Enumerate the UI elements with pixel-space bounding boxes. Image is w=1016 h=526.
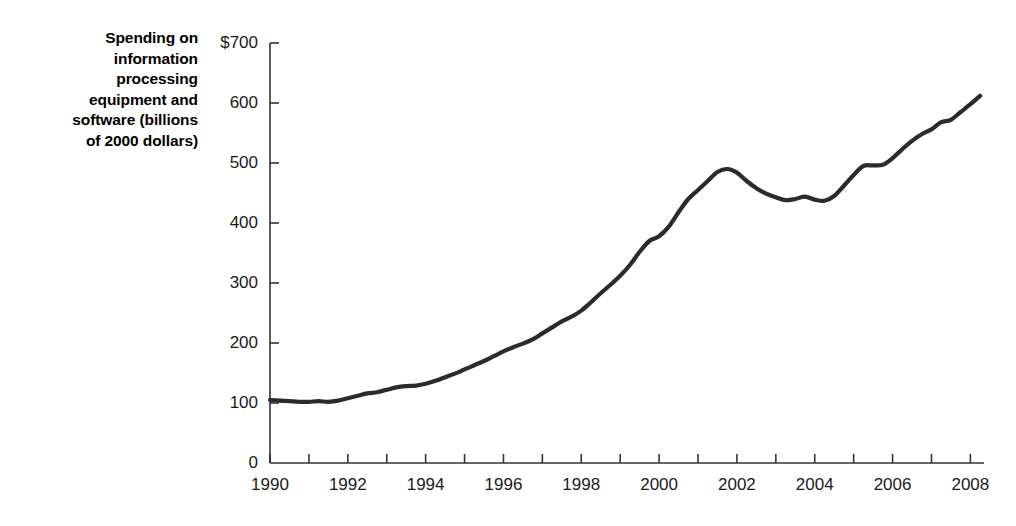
x-axis-tick-label: 2004 xyxy=(796,475,834,495)
data-series-line xyxy=(270,96,980,402)
chart-figure: Spending on information processing equip… xyxy=(0,0,1016,526)
x-axis-tick-label: 1994 xyxy=(407,475,445,495)
y-axis-tick-label: 0 xyxy=(150,453,258,473)
x-axis-tick-label: 1992 xyxy=(329,475,367,495)
x-axis-tick-label: 2008 xyxy=(951,475,989,495)
y-axis-tick-label: 400 xyxy=(150,213,258,233)
y-axis-tick-label: 300 xyxy=(150,273,258,293)
x-axis-tick-label: 2000 xyxy=(640,475,678,495)
y-axis-tick-label: 100 xyxy=(150,393,258,413)
x-axis-tick-label: 1998 xyxy=(562,475,600,495)
y-axis-tick-label: 200 xyxy=(150,333,258,353)
x-axis-tick-label: 2002 xyxy=(718,475,756,495)
y-axis-tick-label: 600 xyxy=(150,93,258,113)
y-axis-tick-label: 500 xyxy=(150,153,258,173)
x-axis-tick-label: 1996 xyxy=(485,475,523,495)
y-axis-tick-label: $700 xyxy=(150,33,258,53)
x-axis-tick-label: 2006 xyxy=(874,475,912,495)
chart-plot-area xyxy=(0,0,1016,526)
x-axis-tick-label: 1990 xyxy=(251,475,289,495)
x-axis xyxy=(270,454,984,463)
